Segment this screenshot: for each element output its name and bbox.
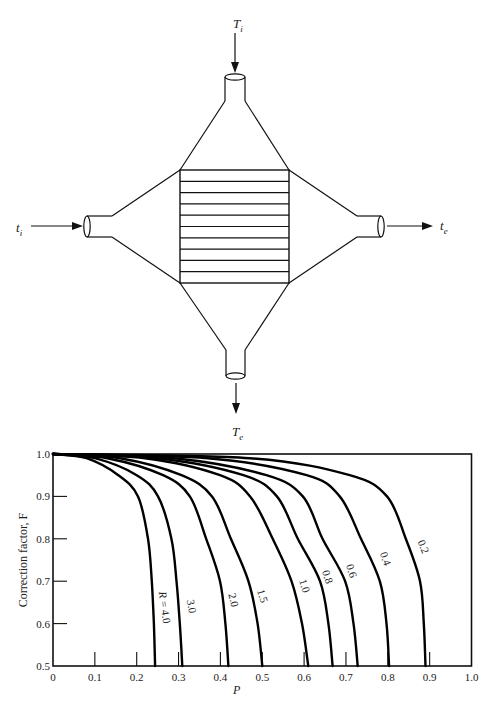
y-tick-label: 1.0 <box>36 448 50 460</box>
arrow-right-icon <box>422 222 433 230</box>
x-tick-label: 0 <box>50 671 56 683</box>
crossflow-exchanger-diagram: Ti ti <box>16 16 448 442</box>
y-tick-label: 0.7 <box>36 575 50 587</box>
shell-inlet: Ti <box>180 16 289 170</box>
curve-r-0-4 <box>53 454 389 666</box>
tube-inlet: ti <box>16 170 180 283</box>
tube-bundle <box>180 170 289 283</box>
curve-r-0-6 <box>53 454 358 666</box>
curve-label: 0.2 <box>416 538 432 555</box>
arrow-down-icon <box>232 403 240 414</box>
curve-r-4-0 <box>53 454 155 666</box>
x-tick-label: 0.2 <box>130 671 144 683</box>
curve-r-3-0 <box>53 454 182 666</box>
x-tick-label: 0.9 <box>423 671 437 683</box>
x-tick-label: 0.4 <box>214 671 228 683</box>
shell-inlet-label: Ti <box>233 16 243 34</box>
x-axis-ticks: 00.10.20.30.40.50.60.70.80.91.0 <box>50 652 479 683</box>
tube-exit-label: te <box>440 218 448 236</box>
curve-label: 0.8 <box>320 568 336 585</box>
x-tick-label: 0.8 <box>381 671 395 683</box>
curve-label: 1.5 <box>255 588 270 605</box>
x-tick-label: 0.1 <box>88 671 102 683</box>
curve-label: R = 4.0 <box>157 590 174 625</box>
curve-label: 3.0 <box>185 598 199 614</box>
x-tick-label: 0.6 <box>297 671 311 683</box>
y-axis-label: Correction factor, F <box>16 512 30 607</box>
x-tick-label: 0.7 <box>339 671 353 683</box>
curve-r-1-5 <box>53 454 262 666</box>
y-tick-label: 0.6 <box>36 618 50 630</box>
shell-exit-label: Te <box>232 424 243 442</box>
curve-label: 2.0 <box>226 592 241 609</box>
shell-exit: Te <box>180 283 289 442</box>
arrow-down-icon <box>231 62 239 73</box>
figure: Ti ti <box>0 0 495 705</box>
curves <box>53 454 426 666</box>
curve-label: 1.0 <box>297 577 313 594</box>
tube-exit: te <box>289 170 448 283</box>
y-tick-label: 0.9 <box>36 490 50 502</box>
x-tick-label: 0.3 <box>172 671 186 683</box>
curve-labels: R = 4.03.02.01.51.00.80.60.40.2 <box>157 538 432 625</box>
y-axis-ticks: 0.50.60.70.80.91.0 <box>36 448 67 672</box>
curve-label: 0.6 <box>344 562 360 579</box>
y-tick-label: 0.8 <box>36 533 50 545</box>
plot-frame <box>53 454 472 666</box>
x-tick-label: 1.0 <box>465 671 479 683</box>
y-tick-label: 0.5 <box>36 660 50 672</box>
tube-inlet-label: ti <box>16 220 23 238</box>
correction-factor-chart: 00.10.20.30.40.50.60.70.80.91.0 0.50.60.… <box>16 448 479 697</box>
x-axis-label: P <box>232 683 241 697</box>
arrow-right-icon <box>72 222 83 230</box>
curve-label: 0.4 <box>378 550 394 567</box>
x-tick-label: 0.5 <box>255 671 269 683</box>
